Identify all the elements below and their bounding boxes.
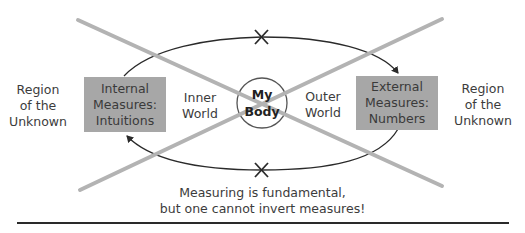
caption-line1: Measuring is fundamental,	[140, 185, 385, 201]
external-box-line1: External	[365, 79, 429, 95]
caption: Measuring is fundamental, but one cannot…	[140, 185, 385, 217]
left-region-line2: of the	[8, 98, 68, 114]
left-region-line1: Region	[8, 82, 68, 98]
caption-line2: but one cannot invert measures!	[140, 201, 385, 217]
bottom-rule-divider	[17, 222, 509, 224]
internal-measures-box: Internal Measures: Intuitions	[84, 77, 166, 132]
my-body-line1: My	[237, 86, 287, 103]
external-box-line2: Measures:	[365, 95, 429, 111]
right-region-line3: Unknown	[452, 113, 514, 129]
right-region-label: Region of the Unknown	[452, 81, 514, 129]
internal-box-line3: Intuitions	[93, 113, 157, 129]
my-body-line2: Body	[237, 103, 287, 120]
inner-world-line2: World	[178, 106, 222, 122]
outer-world-label: Outer World	[300, 89, 346, 121]
outer-world-line2: World	[300, 105, 346, 121]
inner-world-label: Inner World	[178, 90, 222, 122]
right-region-line1: Region	[452, 81, 514, 97]
inner-world-line1: Inner	[178, 90, 222, 106]
my-body-label: My Body	[237, 86, 287, 120]
left-region-line3: Unknown	[8, 114, 68, 130]
outer-world-line1: Outer	[300, 89, 346, 105]
internal-box-line1: Internal	[93, 81, 157, 97]
right-region-line2: of the	[452, 97, 514, 113]
top-arc-arrow	[124, 37, 398, 76]
left-region-label: Region of the Unknown	[8, 82, 68, 130]
external-measures-box: External Measures: Numbers	[356, 76, 438, 130]
internal-box-line2: Measures:	[93, 97, 157, 113]
external-box-line3: Numbers	[365, 111, 429, 127]
